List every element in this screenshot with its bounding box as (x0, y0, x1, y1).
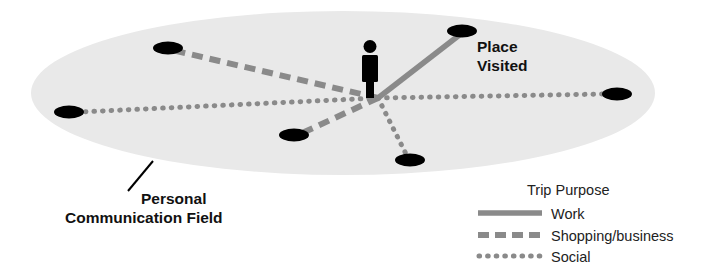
field-label-leader-line (128, 161, 153, 191)
legend-title: Trip Purpose (527, 182, 609, 198)
legend-label-work: Work (551, 206, 585, 222)
place-marker-top-left (153, 42, 183, 55)
personal-communication-field-diagram: Place Visited Personal Communication Fie… (0, 0, 712, 271)
place-marker-bottom (395, 154, 425, 167)
place-visited-label-line2: Visited (477, 57, 528, 74)
field-label-line1: Personal (141, 190, 206, 207)
place-visited-label-line1: Place (477, 38, 518, 55)
legend-label-shopping-business: Shopping/business (551, 228, 674, 244)
personal-communication-field-ellipse (31, 11, 655, 175)
person-body-icon (362, 55, 378, 82)
place-marker-bottom-left (279, 129, 309, 142)
legend-item-social[interactable]: Social (479, 249, 591, 265)
place-marker-right (602, 88, 632, 101)
person-legs-icon (366, 80, 374, 98)
legend-label-social: Social (551, 249, 591, 265)
personal-communication-field-label: Personal Communication Field (65, 190, 223, 226)
place-marker-top-right (447, 25, 477, 38)
diagram-figure: Place Visited Personal Communication Fie… (0, 0, 712, 271)
place-marker-left (54, 106, 84, 119)
legend: Trip Purpose Work Shopping/business Soci… (478, 182, 674, 265)
legend-item-work[interactable]: Work (478, 206, 585, 222)
person-head-icon (364, 40, 377, 53)
field-label-line2: Communication Field (65, 209, 223, 226)
legend-item-shopping-business[interactable]: Shopping/business (478, 228, 674, 244)
